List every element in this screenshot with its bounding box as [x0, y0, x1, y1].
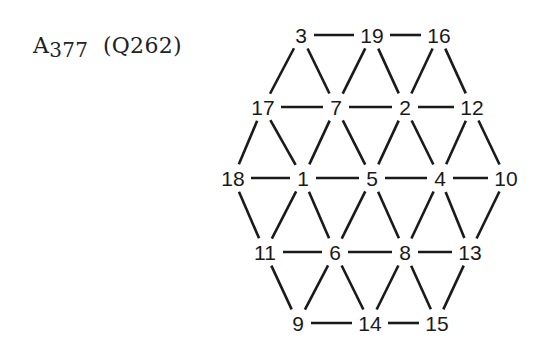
edge-6-9: [305, 265, 328, 309]
node-16: 16: [427, 24, 450, 47]
edge-16-2: [411, 49, 432, 94]
node-12: 12: [460, 96, 483, 119]
node-15: 15: [425, 312, 448, 335]
node-9: 9: [292, 312, 304, 335]
edge-16-12: [445, 49, 466, 94]
edge-8-14: [377, 265, 399, 309]
node-8: 8: [399, 241, 411, 264]
edge-7-5: [343, 120, 365, 164]
node-4: 4: [434, 167, 446, 190]
edge-3-7: [308, 48, 330, 93]
node-2: 2: [399, 96, 411, 119]
node-10: 10: [494, 167, 517, 190]
node-13: 13: [458, 241, 481, 264]
node-18: 18: [221, 167, 244, 190]
edge-5-8: [378, 192, 399, 239]
edge-4-13: [446, 192, 465, 238]
edge-5-6: [342, 191, 366, 238]
node-14: 14: [358, 312, 382, 335]
edge-2-5: [378, 121, 398, 165]
edge-6-14: [342, 265, 364, 309]
node-17: 17: [251, 96, 274, 119]
edge-4-8: [411, 192, 433, 239]
node-11: 11: [254, 241, 276, 264]
edge-17-1: [270, 120, 295, 165]
edge-12-10: [478, 121, 499, 165]
edge-12-4: [446, 121, 466, 165]
node-6: 6: [329, 241, 341, 264]
triangular-graph: 31916177212181541011681391415: [0, 0, 545, 347]
edge-2-4: [412, 120, 434, 164]
edge-8-15: [411, 266, 431, 310]
edge-11-9: [271, 266, 291, 310]
edge-1-6: [309, 192, 329, 238]
edge-10-13: [477, 191, 500, 238]
node-1: 1: [297, 167, 309, 190]
edge-17-18: [239, 121, 257, 164]
edge-18-11: [239, 192, 259, 238]
node-7: 7: [330, 96, 342, 119]
edge-19-7: [343, 48, 366, 93]
edge-7-1: [309, 121, 329, 165]
edge-19-2: [378, 49, 399, 94]
edge-1-11: [272, 191, 296, 238]
edge-13-15: [443, 266, 463, 310]
node-3: 3: [295, 24, 307, 47]
node-19: 19: [360, 24, 383, 47]
node-5: 5: [366, 167, 378, 190]
edge-3-17: [270, 48, 294, 93]
